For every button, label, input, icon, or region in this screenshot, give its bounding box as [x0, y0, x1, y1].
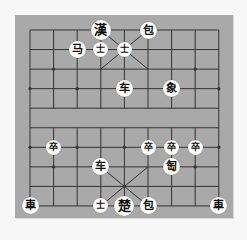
piece-卒-6-6[interactable]: 卒 [164, 140, 179, 155]
piece-马-2-1[interactable]: 马 [69, 41, 86, 58]
piece-漢-3-0[interactable]: 漢 [91, 20, 111, 40]
piece-卒-5-6[interactable]: 卒 [141, 140, 156, 155]
piece-包-5-9[interactable]: 包 [140, 197, 157, 214]
piece-車-0-9[interactable]: 車 [22, 197, 39, 214]
piece-车-4-3[interactable]: 车 [116, 80, 133, 97]
piece-卒-1-6[interactable]: 卒 [46, 140, 61, 155]
piece-卒-7-6[interactable]: 卒 [188, 140, 203, 155]
piece-包-5-0[interactable]: 包 [140, 22, 157, 39]
piece-士-4-1[interactable]: 士 [117, 42, 132, 57]
